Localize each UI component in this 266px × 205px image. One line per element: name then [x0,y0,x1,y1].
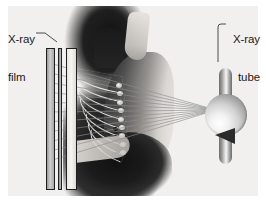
label-xray-film: X-ray film [8,8,35,108]
label-xray-tube-line2: tube [233,71,260,84]
film-plate-2 [58,48,62,190]
label-xray-film-line2: film [8,71,35,84]
label-xray-tube: X-ray tube [233,8,260,108]
film-plate-1 [46,48,55,190]
label-xray-tube-line1: X-ray [233,33,260,46]
illustration-panel [8,6,258,196]
film-plate-3 [66,48,77,190]
tube-anode-wedge [215,128,235,144]
label-xray-film-line1: X-ray [8,33,35,46]
xray-diagram-figure: X-ray film X-ray tube [0,0,266,205]
